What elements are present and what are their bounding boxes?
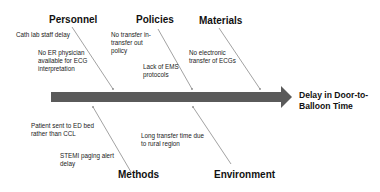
cause-lack-of-ems-protocols: Lack of EMS protocols <box>143 63 179 79</box>
category-policies: Policies <box>136 14 174 25</box>
category-environment: Environment <box>214 169 275 180</box>
fishbone-diagram: Personnel Policies Materials Cath lab st… <box>0 0 380 192</box>
cause-long-transfer-time: Long transfer time due to rural region <box>141 132 204 148</box>
spine-arrow <box>51 86 292 108</box>
cause-patient-sent-to-ed-bed: Patient sent to ED bed rather than CCL <box>31 122 94 138</box>
cause-no-transfer-policy: No transfer in- transfer out policy <box>111 31 151 55</box>
cause-stemi-paging-delay: STEMI paging alert delay <box>60 152 114 168</box>
category-personnel: Personnel <box>49 14 97 25</box>
policies-bone <box>158 29 192 89</box>
cause-no-er-physician: No ER physician available for ECG interp… <box>38 49 87 73</box>
effect-label: Delay in Door-to- Balloon Time <box>299 90 368 112</box>
category-materials: Materials <box>199 15 242 26</box>
category-methods: Methods <box>118 169 159 180</box>
cause-cath-lab-staff-delay: Cath lab staff delay <box>16 31 70 39</box>
cause-no-electronic-ecg-transfer: No electronic transfer of ECGs <box>189 49 236 65</box>
